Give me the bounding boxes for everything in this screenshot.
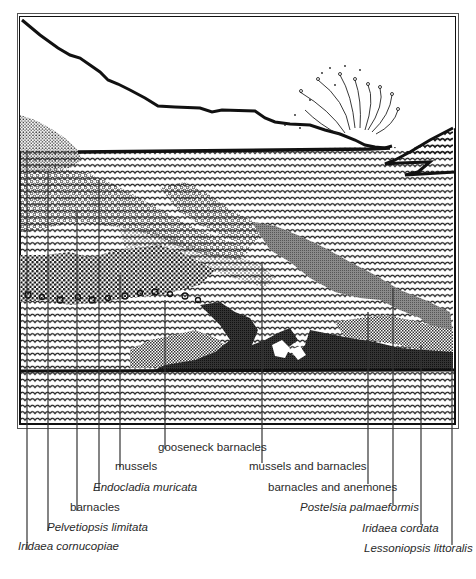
label-gooseneck-barnacles: gooseneck barnacles [158, 441, 267, 454]
label-barnacles-and-anemones: barnacles and anemones [268, 481, 397, 494]
intertidal-zonation-diagram [0, 0, 476, 579]
shoreline-lower [20, 370, 455, 371]
label-iridaea-cornucopiae: Iridaea cornucopiae [18, 540, 119, 553]
label-iridaea-cordata: Iridaea cordata [362, 522, 439, 535]
land-white [20, 17, 455, 152]
label-postelsia-palmaeformis: Postelsia palmaeformis [300, 501, 419, 514]
label-pelvetiopsis-limitata: Pelvetiopsis limitata [47, 521, 148, 534]
label-barnacles: barnacles [70, 501, 120, 514]
label-mussels-and-barnacles: mussels and barnacles [249, 460, 367, 473]
lower-sea [20, 372, 455, 424]
label-mussels: mussels [115, 460, 157, 473]
label-lessoniopsis-littoralis: Lessoniopsis littoralis [364, 542, 473, 555]
label-endocladia-muricata: Endocladia muricata [93, 481, 197, 494]
